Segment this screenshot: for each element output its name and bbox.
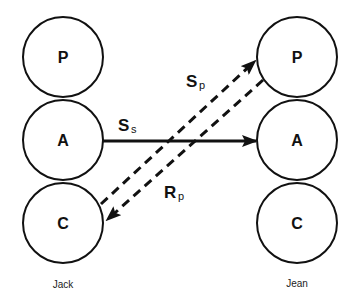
- jack-adult-state: A: [23, 100, 103, 180]
- jean-child-label: C: [291, 215, 303, 232]
- transaction-diagram: P A C Jack P A C Jean S s: [0, 0, 354, 307]
- label-ss-sub: s: [131, 123, 137, 135]
- psychological-response-arrow: [107, 80, 263, 220]
- label-rp-main: R: [164, 183, 176, 202]
- jack-parent-label: P: [58, 49, 69, 66]
- jack-adult-label: A: [57, 132, 69, 149]
- label-sp: S p: [186, 72, 205, 91]
- jack-child-label: C: [57, 215, 69, 232]
- label-sp-main: S: [186, 72, 197, 91]
- jack-ego-states: P A C Jack: [23, 17, 103, 290]
- jean-adult-state: A: [257, 100, 337, 180]
- jack-name-label: Jack: [53, 279, 75, 290]
- label-rp: R p: [164, 183, 184, 202]
- label-rp-sub: p: [178, 190, 184, 202]
- jean-adult-label: A: [291, 132, 303, 149]
- jean-child-state: C: [257, 183, 337, 263]
- jean-parent-state: P: [257, 17, 337, 97]
- jean-ego-states: P A C Jean: [257, 17, 337, 289]
- jack-child-state: C: [23, 183, 103, 263]
- jack-parent-state: P: [23, 17, 103, 97]
- label-sp-sub: p: [199, 79, 205, 91]
- label-ss-main: S: [118, 116, 129, 135]
- jean-name-label: Jean: [286, 278, 308, 289]
- jean-parent-label: P: [292, 49, 303, 66]
- label-ss: S s: [118, 116, 137, 135]
